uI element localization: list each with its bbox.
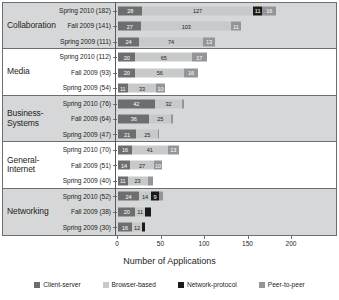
stacked-bar: 11236 — [118, 176, 153, 185]
category-group: Business- SystemsSpring 2010 (76)42322Fa… — [3, 96, 336, 142]
bar-segment-value: 16 — [188, 70, 194, 76]
row-tick-label: Fall 2009 (141) — [3, 18, 111, 33]
bar-segment-value: 11 — [255, 8, 261, 14]
bar-segment-bb: 32 — [155, 99, 183, 108]
bar-segment-bb: 103 — [141, 22, 231, 31]
chart-legend: Client-serverBrowser-basedNetwork-protoc… — [0, 278, 339, 292]
bar-segment-value: 25 — [157, 116, 163, 122]
bar-segment-value: 10 — [155, 162, 161, 168]
stacked-bar: 164113 — [118, 145, 179, 154]
category-group: General- InternetSpring 2010 (70)164113F… — [3, 142, 336, 188]
x-tick-label: 200 — [285, 240, 296, 248]
bar-segment-bb: 65 — [135, 53, 192, 62]
row-tick-label: Spring 2009 (47) — [3, 127, 111, 142]
stacked-bar: 21251 — [118, 130, 159, 139]
x-tick-mark — [161, 236, 162, 239]
bar-segment-value: 13 — [206, 39, 212, 45]
stacked-bar: 206517 — [118, 53, 207, 62]
bar-segment-p2p: 16 — [184, 68, 198, 77]
bar-segment-p2p: 11 — [231, 22, 241, 31]
bar-segment-bb: 74 — [139, 37, 203, 46]
bar-segment-p2p: 13 — [203, 37, 214, 46]
bar-segment-value: 11 — [120, 85, 126, 91]
bar-segment-p2p: 10 — [156, 84, 165, 93]
x-tick-mark — [204, 236, 205, 239]
bar-segment-value: 20 — [124, 209, 130, 215]
bar-segment-value: 17 — [196, 54, 202, 60]
bar-segment-cs: 20 — [118, 53, 135, 62]
chart-row: Spring 2010 (182)281271116 — [3, 3, 336, 18]
bar-segment-cs: 11 — [118, 84, 128, 93]
chart-row: Fall 2009 (93)205616 — [3, 65, 336, 80]
chart-row: Spring 2009 (30)16123 — [3, 220, 336, 235]
x-tick-label: 0 — [115, 240, 119, 248]
legend-swatch-icon — [259, 282, 265, 288]
chart-row: Spring 2010 (70)164113 — [3, 142, 336, 157]
row-tick-label: Spring 2010 (70) — [3, 142, 111, 157]
legend-label: Browser-based — [112, 281, 156, 289]
legend-label: Peer-to-peer — [268, 281, 305, 289]
chart-row: Spring 2009 (54)113310 — [3, 80, 336, 95]
bar-segment-value: 42 — [133, 101, 139, 107]
legend-swatch-icon — [103, 282, 109, 288]
bar-segment-value: 16 — [266, 8, 272, 14]
row-tick-label: Spring 2009 (30) — [3, 220, 111, 235]
bar-segment-bb: 11 — [135, 207, 145, 216]
bar-segment-p2p: 10 — [154, 161, 163, 170]
bar-segment-value: 12 — [134, 224, 140, 230]
stacked-bar: 16123 — [118, 223, 145, 232]
bar-segment-bb: 25 — [136, 130, 158, 139]
row-tick-label: Fall 2009 (51) — [3, 158, 111, 173]
bar-segment-p2p: 5 — [159, 192, 163, 201]
bar-segment-np: 7 — [145, 207, 151, 216]
bar-segment-cs: 20 — [118, 207, 135, 216]
legend-item: Peer-to-peer — [259, 281, 305, 289]
stacked-bar: 241495 — [118, 192, 163, 201]
bar-segment-value: 11 — [120, 178, 126, 184]
y-axis-line — [115, 2, 116, 236]
bar-segment-bb: 127 — [142, 6, 252, 15]
x-axis-title: Number of Applications — [0, 256, 339, 267]
bar-segment-value: 9 — [153, 193, 156, 199]
bar-segment-value: 20 — [124, 70, 130, 76]
row-tick-label: Fall 2009 (64) — [3, 111, 111, 126]
bar-segment-cs: 24 — [118, 37, 139, 46]
bar-segment-value: 24 — [125, 193, 131, 199]
bar-segment-value: 127 — [193, 8, 202, 14]
bar-segment-np: 9 — [151, 192, 159, 201]
bar-segment-np: 11 — [253, 6, 263, 15]
legend-label: Network-protocol — [187, 281, 237, 289]
stacked-bar: 113310 — [118, 84, 165, 93]
bar-segment-value: 23 — [135, 178, 141, 184]
x-tick-label: 100 — [198, 240, 209, 248]
legend-swatch-icon — [34, 282, 40, 288]
stacked-bar: 281271116 — [118, 6, 276, 15]
chart-row: Fall 2009 (64)36252 — [3, 111, 336, 126]
bar-segment-p2p: 2 — [171, 114, 173, 123]
stacked-bar: 205616 — [118, 68, 198, 77]
stacked-bar: 42322 — [118, 99, 184, 108]
category-group: CollaborationSpring 2010 (182)281271116F… — [3, 3, 336, 49]
bar-segment-value: 27 — [127, 23, 133, 29]
row-tick-label: Spring 2009 (40) — [3, 173, 111, 188]
row-tick-label: Spring 2009 (111) — [3, 34, 111, 49]
chart-row: Spring 2010 (112)206517 — [3, 49, 336, 64]
legend-swatch-icon — [178, 282, 184, 288]
x-tick-label: 50 — [157, 240, 164, 248]
bar-segment-value: 103 — [182, 23, 191, 29]
bar-segment-bb: 41 — [132, 145, 168, 154]
bar-segment-cs: 20 — [118, 68, 135, 77]
bar-segment-bb: 14 — [139, 192, 151, 201]
bar-segment-p2p: 17 — [192, 53, 207, 62]
x-axis: 050100150200 — [2, 236, 337, 252]
bar-segment-value: 11 — [137, 209, 143, 215]
bar-segment-cs: 42 — [118, 99, 155, 108]
row-tick-label: Spring 2009 (54) — [3, 80, 111, 95]
legend-item: Network-protocol — [178, 281, 237, 289]
bar-segment-bb: 27 — [130, 161, 153, 170]
row-tick-label: Fall 2009 (38) — [3, 204, 111, 219]
stacked-bar: 2710311 — [118, 22, 241, 31]
bar-segment-value: 24 — [125, 39, 131, 45]
x-tick-mark — [248, 236, 249, 239]
chart-row: Fall 2009 (51)142710 — [3, 158, 336, 173]
